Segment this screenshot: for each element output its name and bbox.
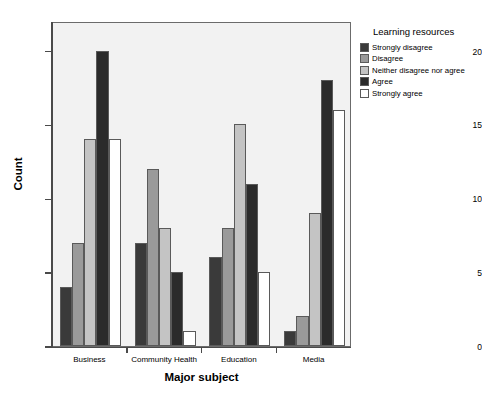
bar [234, 124, 246, 346]
legend-item: Neither disagree nor agree [360, 65, 482, 75]
bar [183, 331, 195, 346]
bar [246, 184, 258, 347]
x-axis-tick [126, 347, 128, 353]
legend-swatch [360, 66, 369, 75]
y-axis-tick-label: 15 [442, 120, 482, 130]
y-axis-line [51, 22, 53, 347]
bar [147, 169, 159, 346]
chart-page: 05101520 Count BusinessCommunity HealthE… [0, 0, 482, 401]
bar [96, 51, 108, 346]
bar [159, 228, 171, 346]
y-axis-tick [45, 125, 51, 127]
y-axis-tick [45, 199, 51, 201]
legend-item: Agree [360, 77, 482, 87]
legend-item-label: Neither disagree nor agree [372, 66, 465, 75]
legend-swatch [360, 43, 369, 52]
bar [135, 243, 147, 346]
x-axis-tick [276, 347, 278, 353]
x-axis-tick [201, 347, 203, 353]
legend-item: Disagree [360, 54, 482, 64]
bar [309, 213, 321, 346]
legend-item-label: Strongly agree [372, 89, 423, 98]
bar [209, 257, 221, 346]
plot-area [53, 23, 350, 346]
legend: Learning resources Strongly disagreeDisa… [360, 26, 482, 100]
bar [284, 331, 296, 346]
legend-swatch [360, 77, 369, 86]
y-axis-tick-label: 0 [442, 342, 482, 352]
bar [258, 272, 270, 346]
y-axis-tick [45, 51, 51, 53]
legend-title: Learning resources [373, 26, 482, 37]
x-axis-group-label: Media [303, 355, 325, 364]
y-axis-tick-label: 5 [442, 268, 482, 278]
y-axis-title: Count [12, 144, 24, 204]
x-axis-group-label: Education [221, 355, 257, 364]
legend-items: Strongly disagreeDisagreeNeither disagre… [360, 42, 482, 98]
plot-frame [52, 22, 351, 347]
bar [171, 272, 183, 346]
bar [296, 316, 308, 346]
x-axis-group-label: Community Health [131, 355, 197, 364]
y-axis-tick [45, 272, 51, 274]
legend-swatch [360, 54, 369, 63]
legend-item: Strongly disagree [360, 42, 482, 52]
legend-swatch [360, 89, 369, 98]
bar [84, 139, 96, 346]
bar [60, 287, 72, 346]
bar [333, 110, 345, 346]
x-axis-group-label: Business [73, 355, 105, 364]
legend-item-label: Strongly disagree [372, 43, 433, 52]
bar [109, 139, 121, 346]
bar [72, 243, 84, 346]
x-axis-title: Major subject [52, 371, 351, 383]
bar [222, 228, 234, 346]
legend-item-label: Agree [372, 77, 393, 86]
y-axis-tick-label: 10 [442, 194, 482, 204]
bar [321, 80, 333, 346]
legend-item-label: Disagree [372, 54, 403, 63]
legend-item: Strongly agree [360, 88, 482, 98]
